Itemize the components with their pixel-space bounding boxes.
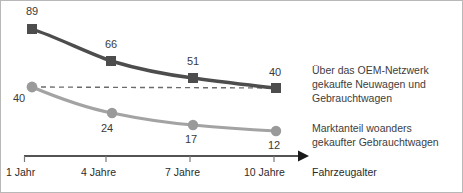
legend-entry-line: Über das OEM-Netzwerk [312, 64, 429, 78]
legend-entry-market-share-elsewhere: Marktanteil woanders gekaufter Gebraucht… [312, 122, 439, 150]
series1-marker [27, 24, 37, 34]
series2-marker [188, 120, 198, 130]
x-axis-tick-label: 4 Jahre [81, 167, 116, 178]
x-axis-tick-label: 10 Jahre [244, 167, 285, 178]
data-label: 40 [13, 93, 25, 104]
series2-marker [107, 108, 117, 118]
x-axis-title: Fahrzeugalter [312, 167, 377, 178]
legend-entry-line: gekaufte Neuwagen und [312, 78, 429, 92]
legend-entry-oem-network: Über das OEM-Netzwerk gekaufte Neuwagen … [312, 64, 429, 106]
data-label: 17 [185, 134, 197, 145]
x-axis-tick-label: 7 Jahre [165, 167, 200, 178]
right-arrow-icon [298, 151, 309, 162]
series1-marker [271, 83, 281, 93]
series1-marker [106, 56, 116, 66]
series2-line [32, 87, 276, 131]
series2-marker [271, 126, 281, 136]
data-label: 51 [187, 56, 199, 67]
chart-container: 89 66 51 40 40 24 17 12 1 Jahr 4 Jahre 7… [0, 0, 463, 193]
legend-entry-line: Marktanteil woanders [312, 122, 439, 136]
legend-entry-line: Gebrauchtwagen [312, 92, 429, 106]
series1-line [32, 29, 276, 88]
data-label: 24 [101, 123, 113, 134]
series2-marker [27, 82, 38, 93]
data-label: 12 [268, 140, 280, 151]
x-axis-tick-label: 1 Jahr [6, 167, 35, 178]
legend-entry-line: gekaufter Gebrauchtwagen [312, 136, 439, 150]
series1-marker [188, 73, 198, 83]
data-label: 66 [105, 39, 117, 50]
data-label: 89 [26, 6, 38, 17]
data-label: 40 [269, 67, 281, 78]
reference-line-40 [32, 87, 276, 88]
